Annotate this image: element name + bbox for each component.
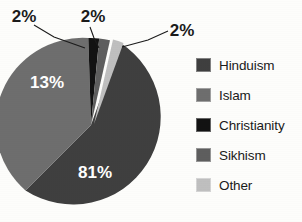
legend-item-islam[interactable]: Islam [196,80,302,110]
legend-item-christianity[interactable]: Christianity [196,110,302,140]
pie-callout-label-other: 2% [170,21,195,40]
legend-item-sikhism[interactable]: Sikhism [196,140,302,170]
pie-chart-figure: 81% 13% 2% 2% 2% Hinduism Islam Christia… [0,0,302,222]
pie-callout-label-sikhism: 2% [81,7,106,26]
legend-swatch-christianity [196,118,211,132]
chart-legend: Hinduism Islam Christianity Sikhism Othe… [196,50,302,200]
legend-swatch-sikhism [196,148,211,162]
leader-line-other [122,31,168,47]
legend-swatch-other [196,178,211,192]
legend-label-hinduism: Hinduism [219,58,274,73]
pie-label-islam: 13% [30,73,64,92]
legend-label-sikhism: Sikhism [219,148,266,163]
legend-label-christianity: Christianity [219,118,285,133]
legend-label-other: Other [219,178,252,193]
legend-swatch-hinduism [196,58,211,72]
legend-item-other[interactable]: Other [196,170,302,200]
pie-callout-label-christianity: 2% [12,7,37,26]
pie-label-hinduism: 81% [78,163,112,182]
legend-item-hinduism[interactable]: Hinduism [196,50,302,80]
legend-label-islam: Islam [219,88,251,103]
legend-swatch-islam [196,88,211,102]
